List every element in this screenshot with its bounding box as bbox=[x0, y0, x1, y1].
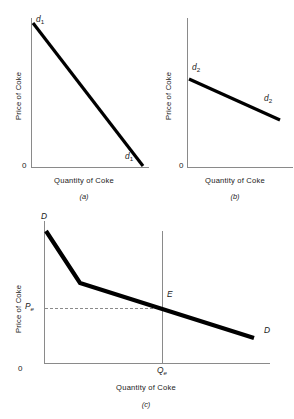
curve-label-d2-bottom-text: d bbox=[264, 93, 269, 103]
quantity-axis-label: Qe bbox=[157, 365, 167, 375]
price-axis-label-text: P bbox=[25, 301, 31, 311]
curve-label-d2-top-sub: 2 bbox=[197, 66, 200, 73]
quantity-axis-label-text: Q bbox=[157, 365, 164, 375]
equilibrium-point-label-text: E bbox=[167, 289, 173, 299]
panel-b-origin-zero: 0 bbox=[179, 161, 183, 170]
curve-label-D-bottom: D bbox=[264, 325, 270, 335]
quantity-axis-label-sub: e bbox=[164, 370, 167, 376]
curve-label-d1-top-sub: 1 bbox=[41, 18, 44, 25]
curve-label-d1-top: d1 bbox=[36, 14, 44, 24]
curve-label-d2-bottom-sub: 2 bbox=[269, 97, 272, 104]
panel-a: Price of Coke 0 d1 d1 Quantity of Coke (… bbox=[0, 0, 147, 210]
panel-c-x-axis-label: Quantity of Coke bbox=[22, 383, 270, 392]
panel-c: Price of Coke 0 D D E Pe Qe Quantity of … bbox=[0, 205, 294, 419]
panel-a-y-axis-label: Price of Coke bbox=[14, 72, 23, 120]
panel-a-origin-zero: 0 bbox=[22, 161, 26, 170]
curve-label-D-bottom-text: D bbox=[264, 325, 270, 335]
curve-label-d1-bottom-text: d bbox=[125, 151, 130, 161]
panel-b-x-axis-label: Quantity of Coke bbox=[180, 176, 290, 185]
panel-b-plot bbox=[170, 15, 294, 180]
curve-label-d2-top: d2 bbox=[192, 62, 200, 72]
curve-label-d1-bottom: d1 bbox=[125, 151, 133, 161]
market-demand-curve-D bbox=[46, 231, 254, 338]
panel-a-caption: (a) bbox=[25, 192, 143, 201]
demand-curve-d1 bbox=[33, 23, 143, 166]
panel-c-plot bbox=[22, 217, 288, 377]
curve-label-d1-bottom-sub: 1 bbox=[130, 155, 133, 162]
price-axis-label: Pe bbox=[25, 301, 34, 311]
price-axis-label-sub: e bbox=[31, 306, 34, 312]
curve-label-d1-top-text: d bbox=[36, 14, 41, 24]
panel-c-origin-zero: 0 bbox=[18, 364, 22, 373]
curve-label-d2-bottom: d2 bbox=[264, 93, 272, 103]
curve-label-D-top: D bbox=[41, 211, 47, 221]
panel-b-caption: (b) bbox=[180, 192, 290, 201]
curve-label-d2-top-text: d bbox=[192, 62, 197, 72]
panel-b: Price of Coke 0 d2 d2 Quantity of Coke (… bbox=[147, 0, 294, 210]
curve-label-D-top-text: D bbox=[41, 211, 47, 221]
equilibrium-point-label: E bbox=[167, 289, 173, 299]
panel-c-caption: (c) bbox=[22, 400, 270, 409]
panel-a-x-axis-label: Quantity of Coke bbox=[25, 176, 143, 185]
